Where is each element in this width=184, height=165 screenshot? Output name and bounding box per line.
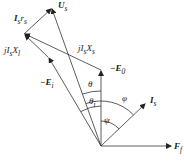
label-psi: ψ <box>104 116 110 125</box>
label-Ff: Ff <box>174 142 182 153</box>
vector-Us <box>52 9 101 146</box>
label-phi: φ <box>122 94 127 103</box>
arc-theta <box>83 91 102 94</box>
label-Ei: −Ei <box>40 78 54 89</box>
vector-Isrs <box>24 9 51 34</box>
vector-jIsXl <box>25 35 48 57</box>
vector-Is <box>101 104 145 146</box>
label-E0: −E0 <box>110 64 125 75</box>
label-jIsXl: jIsXl <box>4 46 20 57</box>
label-Isrs: Isrs <box>14 14 27 25</box>
label-Is: Is <box>150 96 156 107</box>
label-Us: Us <box>58 1 67 12</box>
label-theta-i: θi <box>89 97 96 108</box>
label-theta: θ <box>88 80 92 89</box>
label-jIsXs: jIsXs <box>78 44 95 55</box>
